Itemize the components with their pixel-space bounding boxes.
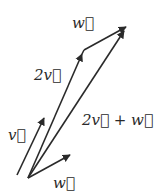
label-w-bottom: w⃗ bbox=[53, 176, 75, 191]
vector-sum-arrow bbox=[28, 31, 124, 178]
label-2v: 2v⃗ bbox=[34, 68, 61, 83]
vector-diagram: w⃗ 2v⃗ v⃗ 2v⃗ + w⃗ w⃗ bbox=[0, 0, 162, 196]
vector-2v-line-extension bbox=[82, 50, 84, 54]
label-sum: 2v⃗ + w⃗ bbox=[82, 113, 153, 128]
label-w-top: w⃗ bbox=[72, 16, 94, 31]
label-v: v⃗ bbox=[8, 128, 25, 143]
